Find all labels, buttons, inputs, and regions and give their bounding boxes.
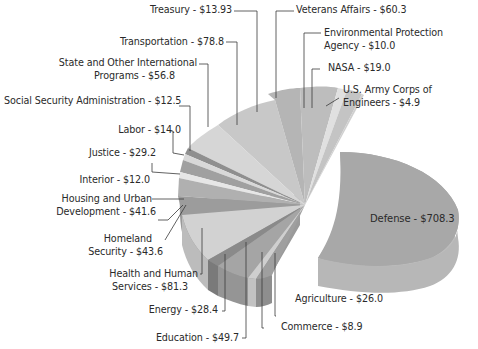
label-commerce: Commerce - $8.9 [281, 321, 363, 334]
label-hud-line2: Development - $41.6 [50, 206, 156, 219]
label-interior: Interior - $12.0 [60, 174, 150, 187]
label-homeland: Homeland Security - $43.6 [70, 233, 163, 258]
label-hud: Housing and Urban Development - $41.6 [50, 193, 156, 218]
label-nasa: NASA - $19.0 [328, 62, 390, 75]
label-state-line2: Programs - $56.8 [40, 70, 175, 83]
label-epa-line2: Agency - $10.0 [324, 40, 443, 53]
label-veterans: Veterans Affairs - $60.3 [296, 4, 406, 17]
label-homeland-line1: Homeland [70, 233, 152, 246]
label-defense: Defense - $708.3 [370, 213, 455, 226]
label-hhs-line1: Health and Human [90, 268, 198, 281]
label-state-line1: State and Other International [40, 57, 197, 70]
label-hhs: Health and Human Services - $81.3 [90, 268, 198, 293]
label-hhs-line2: Services - $81.3 [90, 281, 188, 294]
label-epa: Environmental Protection Agency - $10.0 [324, 27, 443, 52]
label-state: State and Other International Programs -… [40, 57, 197, 82]
label-homeland-line2: Security - $43.6 [70, 246, 163, 259]
label-epa-line1: Environmental Protection [324, 27, 443, 40]
label-hud-line1: Housing and Urban [50, 193, 152, 206]
label-usace-line2: Engineers - $4.9 [343, 97, 432, 110]
label-usace-line1: U.S. Army Corps of [343, 84, 432, 97]
label-transportation: Transportation - $78.8 [110, 36, 224, 49]
label-treasury: Treasury - $13.93 [150, 4, 232, 17]
label-agriculture: Agriculture - $26.0 [295, 293, 383, 306]
label-labor: Labor - $14.0 [90, 124, 181, 137]
label-energy: Energy - $28.4 [130, 304, 218, 317]
label-education: Education - $49.7 [140, 332, 239, 345]
label-usace: U.S. Army Corps of Engineers - $4.9 [343, 84, 432, 109]
label-justice: Justice - $29.2 [60, 147, 156, 160]
label-ssa: Social Security Administration - $12.5 [4, 95, 176, 108]
